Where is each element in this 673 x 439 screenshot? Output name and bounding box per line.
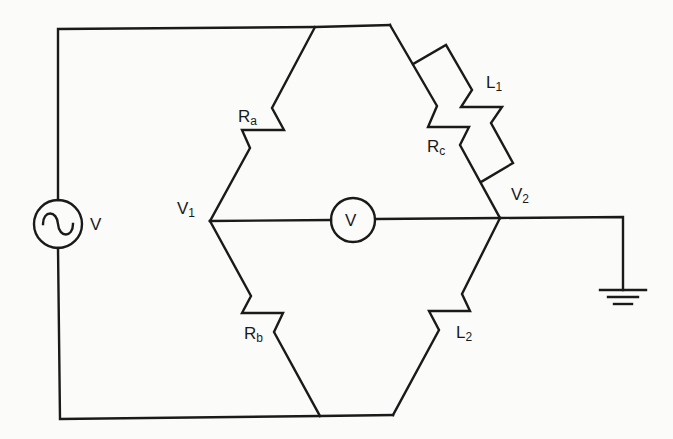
wire-source-bottom — [58, 248, 393, 419]
rc-label-sub: c — [439, 144, 445, 158]
rc-label-main: R — [427, 137, 439, 156]
v2-label-sub: 2 — [522, 192, 529, 206]
wire-ground — [500, 217, 623, 290]
wire-v1-meter — [210, 220, 331, 221]
resistor-ra — [210, 27, 315, 221]
rb-label-main: R — [244, 324, 256, 343]
ra-label-sub: a — [250, 114, 257, 128]
resistor-rc — [390, 25, 500, 218]
voltmeter-label: V — [345, 212, 356, 229]
v1-label-main: V — [177, 199, 188, 218]
source-label: V — [90, 216, 101, 233]
ac-source-icon — [34, 200, 82, 248]
ra-label: Ra — [238, 108, 257, 127]
inductor-l1 — [413, 45, 513, 182]
l2-label: L2 — [456, 324, 472, 343]
rb-label: Rb — [244, 325, 263, 344]
v1-label-sub: 1 — [188, 206, 195, 220]
v1-node-label: V1 — [177, 200, 195, 219]
l1-label-sub: 1 — [495, 80, 502, 94]
ground-icon — [600, 290, 646, 304]
rc-label: Rc — [427, 138, 445, 157]
ra-label-main: R — [238, 107, 250, 126]
rb-label-sub: b — [256, 331, 263, 345]
l2-label-sub: 2 — [465, 330, 472, 344]
wire-source-top — [58, 25, 390, 200]
resistor-rb — [210, 221, 320, 416]
wire-meter-v2 — [376, 218, 500, 219]
l1-label: L1 — [486, 74, 502, 93]
inductor-l2 — [393, 218, 500, 415]
v2-node-label: V2 — [511, 186, 529, 205]
v2-label-main: V — [511, 185, 522, 204]
